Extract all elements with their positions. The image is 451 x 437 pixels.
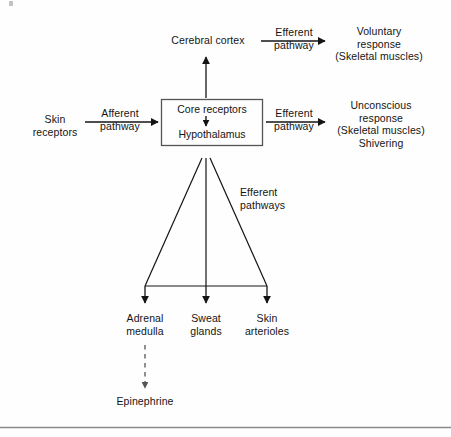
node-unconscious-response: Unconscious response (Skeletal muscles) … xyxy=(316,99,446,149)
figure-canvas: Skin receptors Afferent pathway Cerebral… xyxy=(0,0,451,437)
node-skin-receptors: Skin receptors xyxy=(24,113,86,138)
diagram-vector-layer xyxy=(0,0,451,437)
node-epinephrine: Epinephrine xyxy=(105,395,185,408)
node-voluntary-response: Voluntary response (Skeletal muscles) xyxy=(316,25,442,63)
node-adrenal-medulla: Adrenal medulla xyxy=(113,312,177,337)
node-skin-arterioles: Skin arterioles xyxy=(231,312,303,337)
edge-label-afferent-pathway: Afferent pathway xyxy=(88,107,152,132)
edge-label-efferent-pathways-fan: Efferent pathways xyxy=(240,186,320,211)
efferent-branch-arterioles xyxy=(210,158,267,286)
node-cerebral-cortex: Cerebral cortex xyxy=(156,34,260,47)
node-sweat-glands: Sweat glands xyxy=(176,312,236,337)
efferent-branch-adrenal xyxy=(145,158,202,286)
box-label-core-receptors: Core receptors xyxy=(161,103,263,116)
box-label-hypothalamus: Hypothalamus xyxy=(161,128,263,141)
